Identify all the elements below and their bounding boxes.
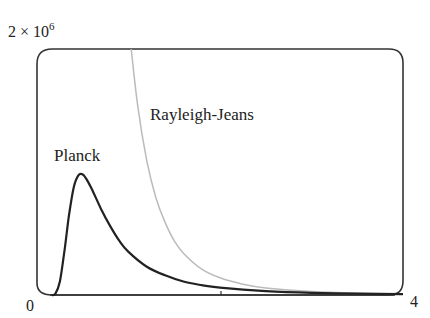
rayleigh-jeans-label: Rayleigh-Jeans — [150, 105, 254, 124]
rayleigh-jeans-curve — [131, 49, 403, 294]
y-max-label: 2 × 106 — [8, 20, 55, 40]
x-min-label: 0 — [26, 297, 34, 314]
chart: 2 × 106 0 4 Planck Rayleigh-Jeans — [0, 0, 430, 318]
plot-frame — [37, 49, 403, 295]
x-max-label: 4 — [410, 293, 418, 310]
planck-curve — [52, 174, 403, 295]
planck-label: Planck — [54, 146, 101, 165]
